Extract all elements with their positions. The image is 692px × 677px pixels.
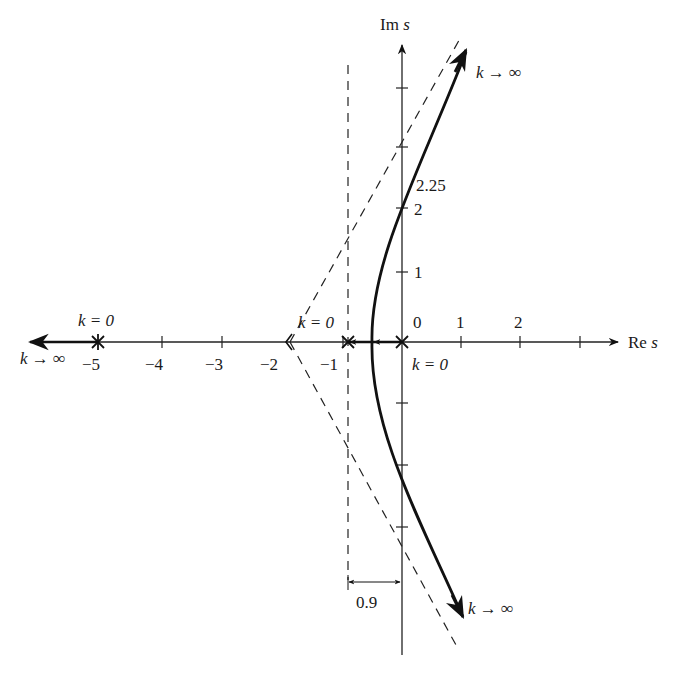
x-tick-label: −3 (205, 355, 223, 374)
imag-axis (396, 45, 408, 655)
imag-crossing-label: 2.25 (416, 176, 446, 195)
x-tick-label: −4 (145, 355, 164, 374)
x-tick-label: −5 (82, 355, 100, 374)
x-tick-label: 2 (514, 313, 523, 332)
x-tick-label: 1 (456, 313, 465, 332)
k-inf-label-bottom: k → ∞ (468, 599, 513, 618)
k-inf-label-left: k → ∞ (20, 349, 65, 368)
y-tick-label: 2 (414, 200, 423, 219)
y-axis-label: Im s (380, 15, 410, 34)
x-tick-label: −2 (260, 355, 278, 374)
k0-label-left: k = 0 (78, 311, 115, 330)
x-tick-label: −1 (320, 355, 338, 374)
locus-main-branch (348, 50, 466, 617)
dimension-marker (348, 575, 400, 590)
k0-label-origin: k = 0 (412, 355, 449, 374)
dimension-label: 0.9 (356, 593, 377, 612)
x-tick-label: 0 (413, 313, 422, 332)
y-tick-label: 1 (414, 263, 423, 282)
x-axis-label: Re s (628, 333, 658, 352)
real-axis (30, 336, 618, 348)
k0-label-mid: k = 0 (298, 313, 335, 332)
k-inf-label-top: k → ∞ (476, 63, 521, 82)
root-locus-diagram: Im s Re s −5 −4 −3 −2 −1 0 1 2 1 2 2.25 … (0, 0, 692, 677)
